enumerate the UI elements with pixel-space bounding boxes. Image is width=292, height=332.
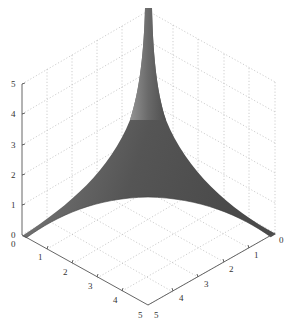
left-axis-tick-labels: 0 1 2 3 4 5 bbox=[11, 239, 143, 320]
right-axis-tick-labels: 0 1 2 3 4 5 bbox=[154, 235, 284, 320]
svg-text:4: 4 bbox=[113, 295, 118, 305]
svg-text:5: 5 bbox=[154, 310, 159, 320]
right-floor-axis bbox=[148, 233, 275, 305]
svg-text:1: 1 bbox=[254, 250, 259, 260]
svg-text:3: 3 bbox=[204, 279, 209, 289]
svg-text:4: 4 bbox=[11, 109, 16, 119]
z-tick-labels: 0 1 2 3 4 5 bbox=[11, 79, 16, 240]
svg-text:1: 1 bbox=[38, 252, 43, 262]
surface-plot: 0 1 2 3 4 5 0 1 2 3 4 5 0 1 2 3 4 5 bbox=[0, 0, 292, 332]
svg-text:5: 5 bbox=[11, 79, 16, 89]
svg-text:4: 4 bbox=[179, 293, 184, 303]
svg-text:5: 5 bbox=[138, 310, 143, 320]
svg-text:0: 0 bbox=[279, 235, 284, 245]
svg-text:3: 3 bbox=[88, 281, 93, 291]
svg-text:0: 0 bbox=[11, 239, 16, 249]
svg-text:3: 3 bbox=[11, 140, 16, 150]
svg-text:2: 2 bbox=[63, 267, 68, 277]
svg-text:1: 1 bbox=[11, 200, 16, 210]
left-floor-axis bbox=[22, 235, 148, 305]
svg-text:2: 2 bbox=[229, 264, 234, 274]
svg-text:2: 2 bbox=[11, 170, 16, 180]
surface bbox=[22, 8, 276, 238]
